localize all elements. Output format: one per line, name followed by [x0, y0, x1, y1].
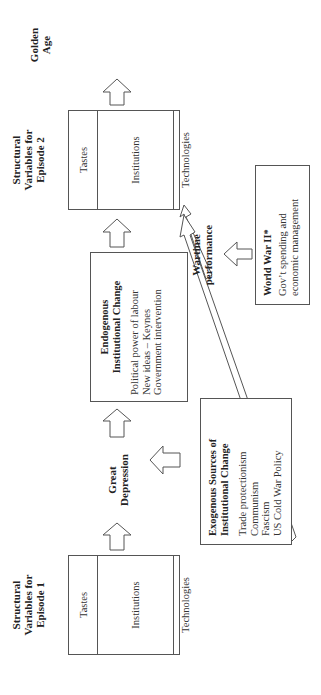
endogenous-item: Political power of labour [129, 259, 141, 395]
golden-age-line: Golden [28, 15, 40, 75]
arrow-wwii-to-wartime [224, 242, 252, 266]
endogenous-box: Endogenous Institutional Change Politica… [90, 252, 188, 402]
diagram-canvas: Structural Variables for Episode 1 Taste… [0, 0, 321, 695]
episode2-tastes: Tastes [69, 111, 97, 209]
episode2-title: Structural Variables for Episode 2 [10, 105, 46, 215]
episode2-title-line: Structural [10, 105, 22, 215]
endogenous-title-line: Endogenous [99, 259, 111, 395]
wwii-title: World War II* [262, 174, 274, 296]
exogenous-title-line: Exogenous Sources of [207, 407, 219, 536]
endogenous-item: Government intervention [152, 259, 164, 395]
great-depression-label: Great Depression [106, 440, 130, 520]
golden-age-line: Age [40, 15, 52, 75]
wwii-item: economic management [289, 174, 301, 296]
episode1-title-line: Variables for [22, 550, 34, 660]
golden-age-label: Golden Age [28, 15, 52, 75]
exogenous-list: Trade protectionism Communism Fascism US… [237, 407, 283, 536]
episode2-title-line: Episode 2 [34, 105, 46, 215]
episode1-title-line: Episode 1 [34, 550, 46, 660]
arrow-endogenous-to-episode2 [103, 219, 131, 247]
wwii-box: World War II* Gov’t spending and economi… [255, 165, 310, 305]
endogenous-item: New ideas – Keynes [141, 259, 153, 395]
wwii-item: Gov’t spending and [277, 174, 289, 296]
episode2-technologies: Technologies [173, 111, 197, 209]
exogenous-box: Exogenous Sources of Institutional Chang… [200, 398, 292, 545]
wartime-line: Wartime [190, 210, 202, 300]
wartime-line: performance [202, 210, 214, 300]
episode2-institutions: Institutions [97, 111, 173, 209]
arrow-episode2-to-golden-age [103, 79, 131, 105]
episode1-title-line: Structural [10, 550, 22, 660]
episode1-institutions: Institutions [97, 556, 173, 654]
arrow-episode1-to-depression [103, 523, 131, 550]
endogenous-title-line: Institutional Change [111, 259, 123, 395]
arrow-exogenous-to-depression [150, 446, 180, 474]
exogenous-title-line: Institutional Change [219, 407, 231, 536]
wwii-list: Gov’t spending and economic management [277, 174, 300, 296]
episode1-tastes: Tastes [69, 556, 97, 654]
episode1-technologies: Technologies [173, 556, 197, 654]
exogenous-item: US Cold War Policy [272, 407, 284, 536]
exogenous-item: Communism [249, 407, 261, 536]
endogenous-title: Endogenous Institutional Change [99, 259, 123, 395]
wartime-performance-label: Wartime performance [190, 210, 214, 300]
arrow-depression-to-endogenous [103, 409, 131, 437]
endogenous-list: Political power of labour New ideas – Ke… [129, 259, 164, 395]
exogenous-item: Fascism [260, 407, 272, 536]
episode2-title-line: Variables for [22, 105, 34, 215]
episode2-box: Tastes Institutions Technologies [68, 110, 180, 210]
episode1-title: Structural Variables for Episode 1 [10, 550, 46, 660]
episode1-box: Tastes Institutions Technologies [68, 555, 180, 655]
great-depression-line: Great [106, 440, 118, 520]
great-depression-line: Depression [118, 440, 130, 520]
exogenous-title: Exogenous Sources of Institutional Chang… [207, 407, 231, 536]
exogenous-item: Trade protectionism [237, 407, 249, 536]
